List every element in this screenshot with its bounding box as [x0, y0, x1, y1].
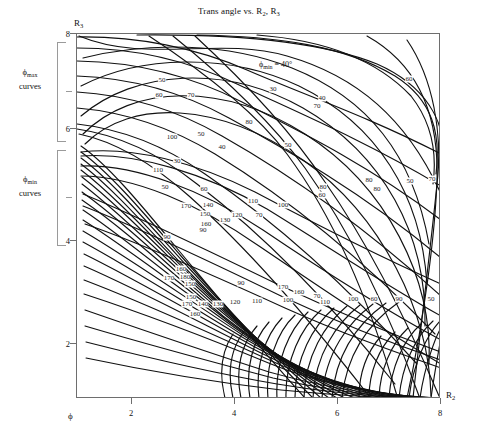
chart-title-text: Trans angle vs. R	[198, 6, 262, 16]
x-tick-label-4: 4	[225, 408, 243, 418]
contour-label: 120	[229, 299, 240, 306]
contour-label: 90	[237, 280, 245, 287]
contour-label: 150	[184, 281, 195, 288]
contour-label: 100	[277, 202, 288, 209]
contour-label: 120	[231, 212, 242, 219]
contour-label: 160	[175, 266, 186, 273]
phi-max-subscript: max	[27, 72, 37, 78]
phi-min-bracket-nub	[66, 197, 72, 198]
contour-label: 50	[427, 296, 435, 303]
chart-title-mid: , R	[266, 6, 277, 16]
phi-min-annotation-value: = 40°	[273, 60, 293, 69]
contour-label: 110	[247, 198, 258, 205]
contour-label: 170	[180, 203, 191, 210]
contour-label: 40	[218, 144, 226, 151]
contour-label: 110	[251, 298, 262, 305]
phi-min-annotation-sub: min	[263, 64, 272, 70]
x-axis-label: R2	[446, 390, 455, 401]
contour-label: 40	[318, 95, 326, 102]
y-axis-label: R3	[74, 18, 83, 29]
contour-label: 60	[405, 76, 413, 83]
contour-label: 50	[197, 131, 205, 138]
contour-label: 50	[158, 77, 166, 84]
contour-label: 170	[163, 275, 174, 282]
x-tick-label-8: 8	[431, 408, 449, 418]
contour-label: 70	[428, 176, 436, 183]
contour-label: 90	[163, 234, 171, 241]
contour-label: 100	[347, 296, 358, 303]
x-tick-mark-8	[440, 398, 441, 404]
contour-label: 80	[245, 119, 253, 126]
contour-label: 170	[181, 301, 192, 308]
contour-label: 130	[212, 301, 223, 308]
phi-min-subscript: min	[28, 179, 37, 185]
contour-label: 70	[313, 103, 321, 110]
contour-label: 80	[319, 184, 327, 191]
contour-label: 100	[282, 297, 293, 304]
phi-max-curves-text: curves	[19, 81, 41, 91]
phi-max-bracket-label: ϕmax curves	[0, 67, 60, 92]
contour-label: 70	[187, 92, 195, 99]
plot-area: ϕmin = 40° 50607030604040708010050405030…	[76, 33, 440, 398]
x-tick-mark-4	[234, 398, 235, 404]
contour-label: 110	[319, 299, 330, 306]
contour-label: 170	[277, 284, 288, 291]
phi-min-bracket-label: ϕmin curves	[0, 174, 60, 199]
phi-max-bracket-nub	[66, 91, 72, 92]
phi-max-bracket	[57, 42, 66, 142]
x-axis-phi-symbol: ϕ	[68, 411, 73, 421]
contour-label: 70	[255, 212, 263, 219]
x-tick-label-6: 6	[328, 408, 346, 418]
contour-label: 80	[373, 186, 381, 193]
x-tick-label-2: 2	[122, 408, 140, 418]
phi-min-annotation: ϕmin = 40°	[259, 60, 292, 70]
y-tick-label-2: 2	[54, 339, 70, 349]
contour-label: 150	[199, 211, 210, 218]
contour-label: 130	[219, 217, 230, 224]
contour-label: 90	[199, 227, 207, 234]
contour-label: 160	[293, 289, 304, 296]
contour-label: 60	[155, 92, 163, 99]
contour-label: 30	[173, 158, 181, 165]
contour-label: 60	[370, 296, 378, 303]
y-axis-label-sub: 3	[80, 22, 83, 29]
contour-label: 110	[152, 167, 163, 174]
contour-label: 140	[197, 301, 208, 308]
x-axis-label-sub: 2	[452, 394, 455, 401]
contour-label: 140	[202, 202, 213, 209]
y-tick-label-8: 8	[54, 29, 70, 39]
contour-plot-figure: Trans angle vs. R2, R3 R3 R2 ϕ 8 6 4 2 2…	[0, 0, 478, 439]
contour-label: 160	[189, 311, 200, 318]
contour-label: 30	[269, 86, 277, 93]
contour-label: 100	[166, 134, 177, 141]
chart-title-sub-3: 3	[277, 10, 280, 17]
contour-label: 50	[284, 142, 292, 149]
x-tick-mark-2	[131, 398, 132, 404]
contour-label: 50	[406, 178, 414, 185]
contour-label: 60	[200, 186, 208, 193]
contour-label: 60	[318, 192, 326, 199]
contour-label: 80	[365, 177, 373, 184]
phi-min-curves-text: curves	[19, 188, 41, 198]
chart-title: Trans angle vs. R2, R3	[0, 6, 478, 17]
contour-label: 90	[395, 296, 403, 303]
contour-label: 50	[161, 184, 169, 191]
x-tick-mark-6	[337, 398, 338, 404]
